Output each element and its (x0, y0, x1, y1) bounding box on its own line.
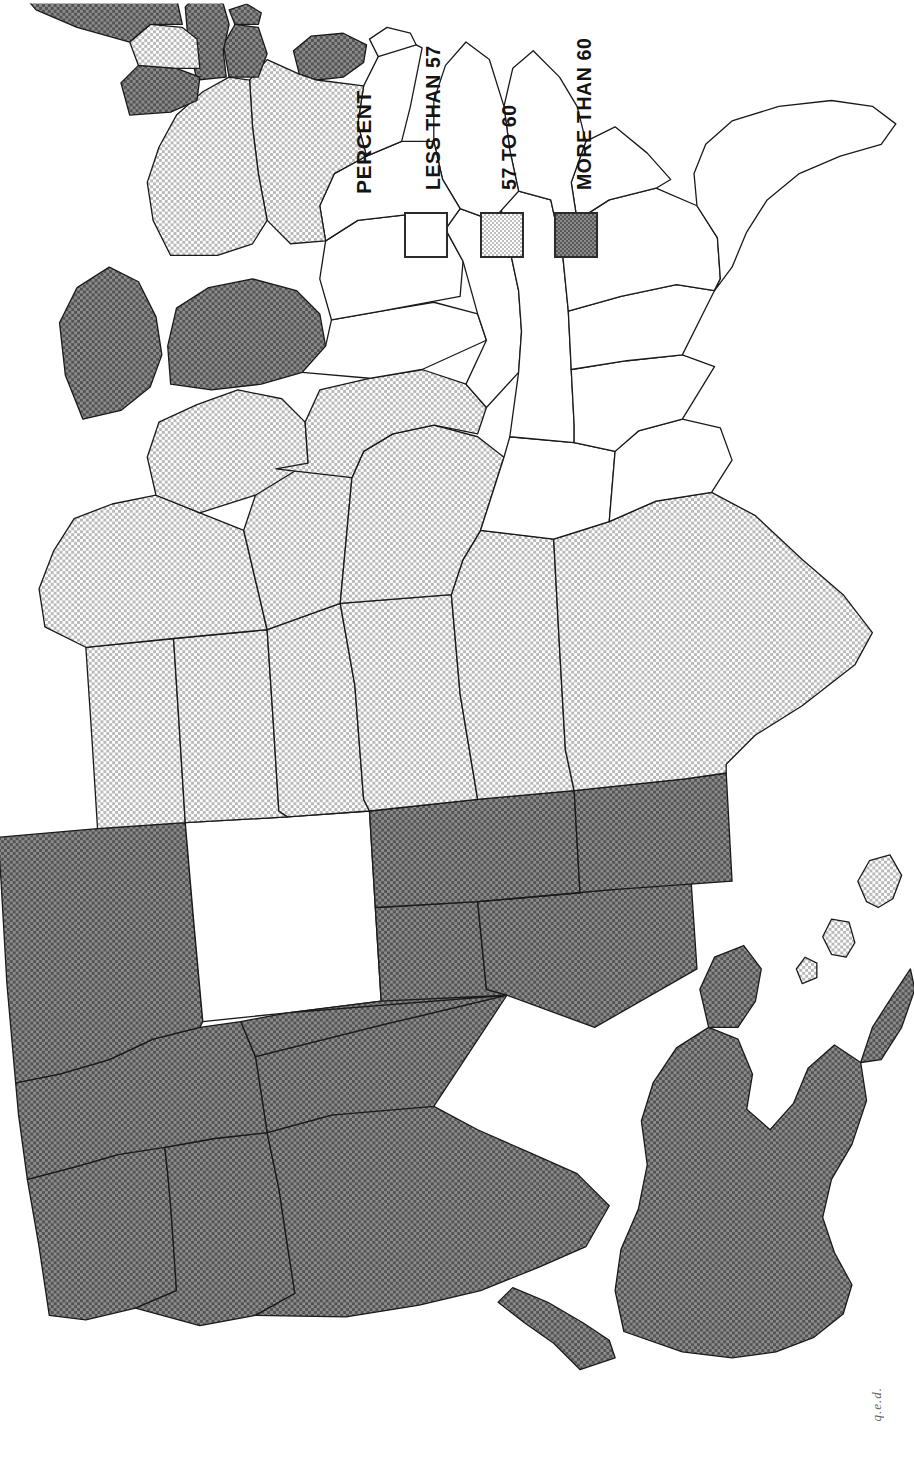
state-AR (480, 436, 615, 538)
legend-swatch-less-than-57 (404, 212, 448, 258)
state-CA (255, 1088, 609, 1316)
map-legend: PERCENT LESS THAN 57 57 TO 60 MORE THAN … (328, 18, 618, 308)
state-MN (39, 495, 267, 647)
state-FL (694, 100, 896, 290)
legend-title: PERCENT (352, 90, 376, 194)
state-HI (796, 854, 901, 983)
state-MI (59, 267, 325, 419)
legend-label-more-than-60: MORE THAN 60 (573, 38, 596, 190)
state-RI (229, 3, 261, 23)
legend-swatch-more-than-60 (554, 212, 598, 258)
state-ND (85, 638, 184, 828)
state-WY (185, 811, 381, 1022)
state-AZ (477, 881, 696, 1027)
legend-label-less-than-57: LESS THAN 57 (422, 45, 445, 190)
legend-swatch-57-to-60 (480, 212, 524, 258)
state-CT (223, 24, 267, 77)
state-TX (553, 492, 872, 790)
handwritten-annotation: q.e.d. (869, 1387, 885, 1422)
legend-label-57-to-60: 57 TO 60 (498, 104, 521, 190)
